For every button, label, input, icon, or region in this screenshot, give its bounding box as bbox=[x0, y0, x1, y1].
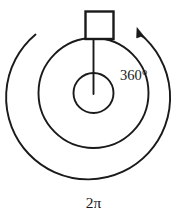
outer-rotation-arc bbox=[6, 34, 170, 180]
rotation-diagram: 360° 2π bbox=[0, 0, 186, 217]
diagram-canvas: 360° 2π bbox=[0, 0, 186, 217]
degrees-label: 360° bbox=[120, 67, 148, 83]
rotating-block-square bbox=[86, 12, 114, 40]
direction-arrowhead-icon bbox=[137, 28, 146, 39]
radians-label: 2π bbox=[86, 194, 102, 211]
